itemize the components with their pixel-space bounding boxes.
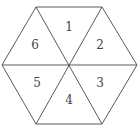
region-label-1: 1 — [65, 20, 73, 34]
region-label-4: 4 — [65, 93, 73, 107]
region-label-6: 6 — [31, 38, 39, 52]
region-label-2: 2 — [96, 38, 104, 52]
region-label-3: 3 — [96, 76, 104, 90]
hexagon-diagram: 1 2 3 4 5 6 — [0, 0, 140, 130]
region-label-5: 5 — [33, 76, 41, 90]
